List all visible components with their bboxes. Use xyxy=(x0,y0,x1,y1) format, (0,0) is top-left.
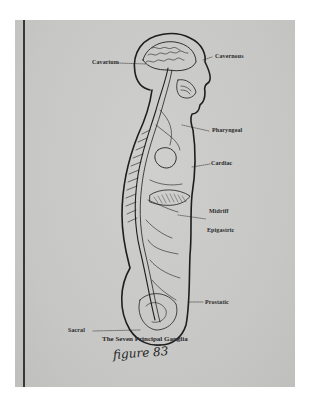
leader-sacral xyxy=(93,330,140,331)
label-prostatic: Prostatic xyxy=(205,299,229,305)
body-outline-back xyxy=(134,34,210,345)
brain xyxy=(143,42,196,71)
figure-caption: The Seven Principal Ganglia xyxy=(102,335,188,343)
label-cardiac: Cardiac xyxy=(211,160,232,166)
leader-epigastric xyxy=(178,215,206,219)
label-pharyngeal: Pharyngeal xyxy=(212,127,242,133)
label-epigastric: Epigastric xyxy=(207,227,234,233)
heart xyxy=(155,148,176,168)
leader-cavarium xyxy=(118,63,146,64)
body-outline-front xyxy=(122,90,160,345)
label-cavernous: Cavernous xyxy=(215,53,244,59)
diaphragm xyxy=(150,190,190,206)
label-sacral: Sacral xyxy=(68,327,85,333)
leader-pharyngeal xyxy=(182,125,209,131)
label-cavarium: Cavarium xyxy=(92,59,119,65)
label-midriff: Midriff xyxy=(209,208,229,214)
